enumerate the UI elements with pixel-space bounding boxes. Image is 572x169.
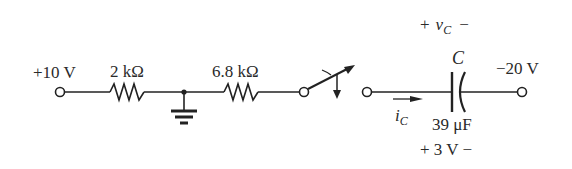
resistor-1-icon: [110, 84, 144, 100]
capacitor-initial-voltage-label: + 3 V −: [420, 140, 472, 159]
terminal-right-icon: [518, 88, 527, 97]
source-left-label: +10 V: [33, 63, 77, 82]
current-label: iC: [395, 106, 409, 128]
capacitor-name-label: C: [452, 48, 465, 68]
resistor-2-label: 6.8 kΩ: [212, 62, 259, 81]
ground-icon: [171, 92, 197, 123]
capacitor-voltage-label: +vC−: [420, 15, 469, 37]
switch-icon: [300, 65, 372, 99]
resistor-1-label: 2 kΩ: [110, 62, 144, 81]
capacitor-value-label: 39 μF: [432, 115, 472, 134]
resistor-2-icon: [224, 84, 258, 100]
terminal-left-icon: [56, 88, 65, 97]
current-arrow-icon: [393, 96, 423, 102]
source-right-label: −20 V: [496, 59, 540, 78]
circuit-diagram: +10 V 2 kΩ 6.8 kΩ iC +vC− C 39 μF +: [0, 0, 572, 169]
